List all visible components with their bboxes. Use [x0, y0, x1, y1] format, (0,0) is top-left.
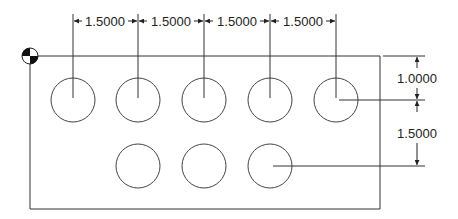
- holes-bottom-row: [116, 144, 292, 188]
- part-outline: [30, 56, 380, 209]
- dim-label: 1.5000: [85, 14, 125, 29]
- dim-label: 1.5000: [283, 14, 323, 29]
- dim-label: 1.5000: [151, 14, 191, 29]
- dim-label: 1.5000: [217, 14, 257, 29]
- technical-drawing: 1.5000 1.5000 1.5000 1.5000 1.0000 1.500…: [0, 0, 458, 219]
- dim-label: 1.5000: [397, 126, 437, 141]
- hole: [116, 144, 160, 188]
- datum-origin-icon: [22, 48, 38, 64]
- hole: [182, 144, 226, 188]
- dim-label: 1.0000: [397, 71, 437, 86]
